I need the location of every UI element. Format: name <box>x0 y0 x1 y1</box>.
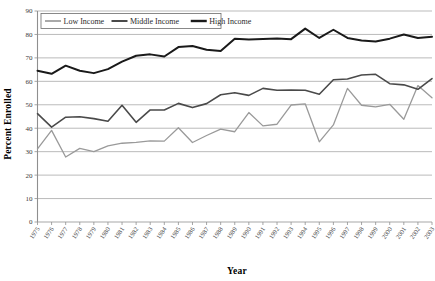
x-tick-label: 1983 <box>140 226 153 240</box>
y-tick-label: 0 <box>29 218 33 226</box>
y-axis-title: Percent Enrolled <box>3 88 13 160</box>
x-tick-label: 1991 <box>253 226 266 240</box>
x-tick-label: 1995 <box>310 226 323 240</box>
x-tick-label: 1988 <box>211 226 224 240</box>
y-tick-label: 10 <box>26 195 34 203</box>
legend-label-high-income: High Income <box>209 17 251 26</box>
x-axis-title: Year <box>227 266 247 276</box>
legend-label-middle-income: Middle Income <box>130 17 180 26</box>
y-tick-label: 40 <box>26 125 34 133</box>
y-tick-label: 80 <box>26 31 34 39</box>
y-tick-label: 70 <box>26 54 34 62</box>
x-tick-label: 1978 <box>70 226 83 240</box>
x-tick-label: 1998 <box>352 226 365 240</box>
y-tick-label: 60 <box>26 78 34 86</box>
x-tick-label: 1975 <box>28 226 41 240</box>
x-tick-label: 2001 <box>394 226 407 240</box>
x-tick-label: 1993 <box>281 226 294 240</box>
y-tick-label: 90 <box>26 7 34 15</box>
x-tick-label: 1994 <box>295 225 309 240</box>
x-tick-label: 2000 <box>380 226 393 240</box>
x-tick-label: 1986 <box>183 226 196 240</box>
x-tick-label: 2002 <box>408 226 421 240</box>
series-line-low-income <box>38 86 433 158</box>
x-tick-label: 1976 <box>42 226 55 240</box>
y-tick-label: 20 <box>26 172 34 180</box>
x-tick-label: 1989 <box>225 226 238 240</box>
chart-legend: Low IncomeMiddle IncomeHigh Income <box>41 14 252 29</box>
y-tick-label: 50 <box>26 101 34 109</box>
chart-container: 0102030405060708090 19751976197719781979… <box>0 0 435 281</box>
x-tick-label: 1981 <box>112 226 125 240</box>
series-line-middle-income <box>38 74 433 127</box>
line-chart: 0102030405060708090 19751976197719781979… <box>0 0 435 281</box>
x-tick-label: 1984 <box>155 225 169 240</box>
x-tick-label: 1992 <box>267 226 280 240</box>
y-axis: 0102030405060708090 <box>26 7 38 226</box>
x-tick-label: 1979 <box>84 226 97 240</box>
x-tick-label: 1997 <box>338 225 352 240</box>
x-tick-label: 1987 <box>197 225 211 240</box>
x-tick-label: 1990 <box>239 226 252 240</box>
legend-label-low-income: Low Income <box>64 17 105 26</box>
x-axis: 1975197619771978197919801981198219831984… <box>28 222 435 240</box>
x-tick-label: 1982 <box>126 226 139 240</box>
x-tick-label: 1985 <box>169 226 182 240</box>
x-tick-label: 1999 <box>366 226 379 240</box>
data-series <box>38 29 433 157</box>
series-line-high-income <box>38 29 433 74</box>
x-tick-label: 2003 <box>422 226 435 240</box>
x-tick-label: 1980 <box>98 226 111 240</box>
x-tick-label: 1977 <box>56 225 70 240</box>
x-tick-label: 1996 <box>324 226 337 240</box>
y-tick-label: 30 <box>26 148 34 156</box>
